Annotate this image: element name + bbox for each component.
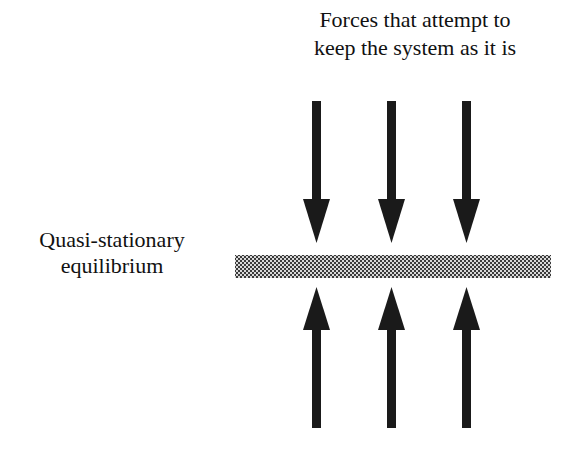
force-field-diagram (0, 0, 580, 457)
down-arrow-2 (378, 101, 405, 243)
equilibrium-bar (235, 255, 551, 278)
down-arrow-3 (453, 101, 480, 243)
up-arrow-2 (378, 287, 405, 428)
up-arrow-1 (303, 287, 330, 428)
down-arrow-1 (303, 101, 330, 243)
up-arrow-3 (453, 287, 480, 428)
